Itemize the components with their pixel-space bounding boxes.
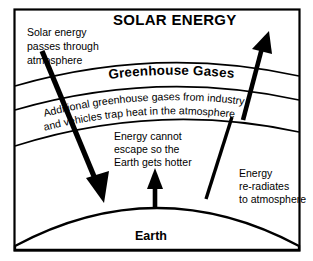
trapped-energy-label-line3: Earth gets hotter	[114, 156, 192, 168]
solar-input-label-line2: passes through	[27, 40, 99, 52]
re-radiation-label-line1: Energy	[239, 167, 273, 179]
re-radiation-label-line2: re-radiates	[239, 180, 289, 192]
trapped-energy-label-line1: Energy cannot	[114, 130, 182, 142]
solar-input-label-line3: atmosphere	[27, 54, 83, 66]
solar-input-label-line1: Solar energy	[27, 26, 87, 38]
re-radiation-label-line3: to atmosphere	[239, 193, 306, 205]
greenhouse-effect-diagram: SOLAR ENERGY Solar energy passes through…	[0, 0, 313, 261]
trapped-energy-label-line2: escape so the	[114, 143, 180, 155]
earth-label: Earth	[135, 229, 167, 243]
diagram-canvas: SOLAR ENERGY Solar energy passes through…	[0, 0, 313, 261]
diagram-title: SOLAR ENERGY	[113, 11, 237, 28]
